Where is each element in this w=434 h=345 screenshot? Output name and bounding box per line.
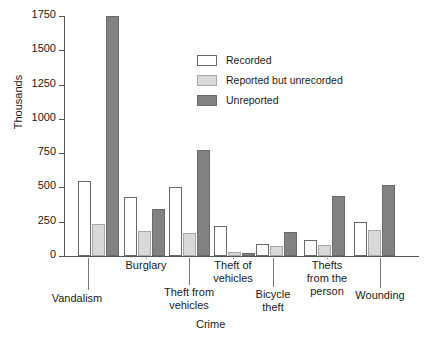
bar-recorded xyxy=(78,181,91,256)
bar-recorded xyxy=(214,226,227,256)
legend-label-recorded: Recorded xyxy=(226,54,272,66)
category-label: Theft of vehicles xyxy=(188,259,278,285)
chart-legend: Recorded Reported but unrecorded Unrepor… xyxy=(197,52,343,112)
bar-unrecorded xyxy=(92,224,105,256)
bar-group xyxy=(354,16,395,256)
bar-unreported xyxy=(332,196,345,256)
bar-unreported xyxy=(284,232,297,256)
category-leader-line xyxy=(380,258,381,288)
category-leader-line xyxy=(273,258,274,287)
y-tick-label: 1750 xyxy=(32,8,56,20)
bar-unreported xyxy=(382,185,395,256)
y-tick-750: 750 xyxy=(64,153,65,154)
legend-label-reported-but-unrecorded: Reported but unrecorded xyxy=(226,74,343,86)
category-label: Theft from vehicles xyxy=(144,286,234,312)
y-tick-mark xyxy=(59,222,64,223)
y-axis-title: Thousands xyxy=(12,57,24,147)
bar-unreported xyxy=(106,16,119,256)
category-leader-line xyxy=(88,258,89,290)
bar-unrecorded xyxy=(228,252,241,256)
y-tick-label: 1500 xyxy=(32,42,56,54)
bar-unrecorded xyxy=(368,230,381,256)
bar-unreported xyxy=(242,253,255,256)
legend-item-reported-but-unrecorded: Reported but unrecorded xyxy=(197,72,343,88)
y-tick-mark xyxy=(59,256,64,257)
y-tick-mark xyxy=(59,50,64,51)
bar-chart: Thousands 02505007501000125015001750 Rec… xyxy=(0,0,434,345)
bar-recorded xyxy=(256,244,269,256)
legend-item-recorded: Recorded xyxy=(197,52,343,68)
category-label: Wounding xyxy=(330,289,430,302)
x-axis-title: Crime xyxy=(196,318,225,330)
bar-group xyxy=(124,16,165,256)
bar-group xyxy=(78,16,119,256)
y-tick-mark xyxy=(59,16,64,17)
bar-recorded xyxy=(169,187,182,256)
y-tick-mark xyxy=(59,153,64,154)
y-tick-1000: 1000 xyxy=(64,119,65,120)
legend-swatch-recorded xyxy=(197,55,217,66)
y-tick-label: 250 xyxy=(38,214,56,226)
bar-recorded xyxy=(124,197,137,256)
bar-unreported xyxy=(197,150,210,256)
bar-unrecorded xyxy=(183,233,196,256)
x-axis-line xyxy=(64,256,419,257)
category-label: Burglary xyxy=(101,259,191,272)
legend-swatch-reported-but-unrecorded xyxy=(197,75,217,86)
y-tick-250: 250 xyxy=(64,222,65,223)
y-tick-mark xyxy=(59,85,64,86)
bar-recorded xyxy=(354,222,367,256)
y-tick-label: 500 xyxy=(38,179,56,191)
bar-unreported xyxy=(152,209,165,256)
y-tick-1250: 1250 xyxy=(64,85,65,86)
y-tick-label: 1000 xyxy=(32,111,56,123)
y-tick-label: 1250 xyxy=(32,77,56,89)
bar-recorded xyxy=(304,240,317,256)
bar-unrecorded xyxy=(270,246,283,256)
y-tick-mark xyxy=(59,119,64,120)
y-tick-1500: 1500 xyxy=(64,50,65,51)
bar-unrecorded xyxy=(138,231,151,256)
y-tick-mark xyxy=(59,187,64,188)
y-tick-label: 0 xyxy=(50,248,56,260)
y-tick-500: 500 xyxy=(64,187,65,188)
y-tick-1750: 1750 xyxy=(64,16,65,17)
bar-unrecorded xyxy=(318,245,331,256)
legend-label-unreported: Unreported xyxy=(226,94,279,106)
legend-swatch-unreported xyxy=(197,95,217,106)
category-label: Vandalism xyxy=(32,292,122,305)
y-tick-0: 0 xyxy=(64,256,65,257)
legend-item-unreported: Unreported xyxy=(197,92,343,108)
y-tick-label: 750 xyxy=(38,145,56,157)
